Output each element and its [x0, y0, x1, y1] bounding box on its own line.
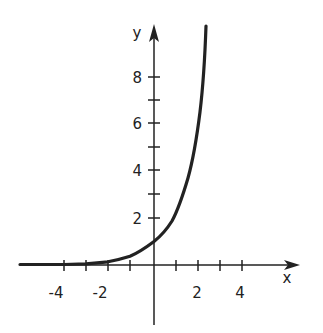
x-tick-label: -4: [49, 284, 64, 302]
exponential-chart: -4 -2 2 4 2 4 6 8 y x: [0, 0, 323, 333]
y-tick-label: 8: [132, 69, 142, 87]
exponential-curve: [20, 26, 206, 265]
y-tick-label: 2: [132, 210, 142, 228]
y-tick-label: 4: [132, 162, 142, 180]
x-tick-label: 2: [192, 284, 202, 302]
x-tick-label: 4: [235, 284, 245, 302]
y-axis-label: y: [133, 24, 142, 42]
x-tick-label: -2: [93, 284, 108, 302]
y-tick-label: 6: [132, 115, 142, 133]
x-axis-label: x: [283, 269, 292, 287]
